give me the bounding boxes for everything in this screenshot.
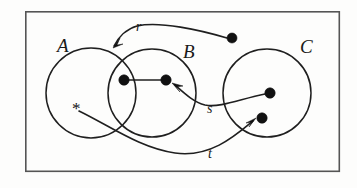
dot-outside-top-right <box>227 33 237 43</box>
set-label-b: B <box>183 41 195 62</box>
relation-path-s <box>175 85 265 106</box>
set-label-a: A <box>55 35 69 56</box>
set-relation-diagram: A B C r s t * <box>0 0 357 188</box>
dot-in-c-lower <box>257 113 267 123</box>
relation-label-s: s <box>207 101 213 116</box>
dot-in-b-right <box>161 75 171 85</box>
relation-path-r <box>114 25 227 46</box>
dot-in-c-upper <box>265 88 275 98</box>
figure-canvas: A B C r s t * <box>0 0 357 188</box>
star-mark-in-a: * <box>72 99 81 118</box>
dot-in-a-and-b-left <box>119 75 129 85</box>
relation-label-r: r <box>136 19 142 34</box>
relation-path-t <box>79 111 253 154</box>
set-circle-b <box>108 49 196 137</box>
set-label-c: C <box>300 36 313 57</box>
set-circle-a <box>46 48 136 138</box>
